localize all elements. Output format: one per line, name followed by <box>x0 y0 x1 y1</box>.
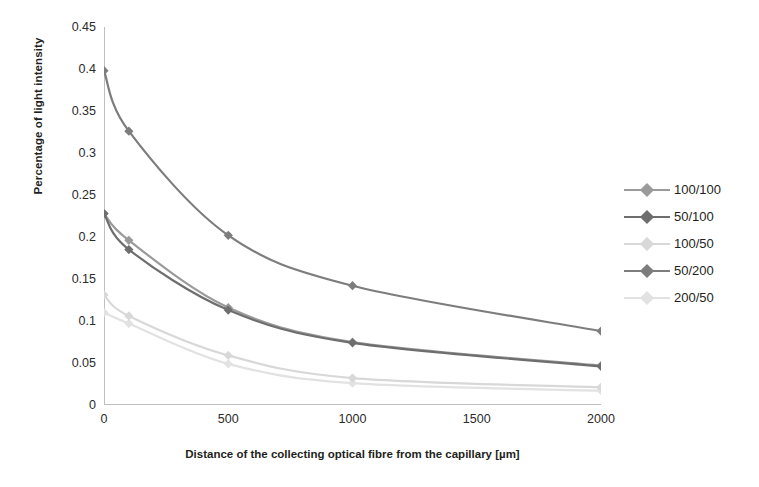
legend-marker-icon <box>624 183 670 197</box>
legend-marker-icon <box>624 210 670 224</box>
y-tick-label: 0.25 <box>52 189 96 201</box>
y-axis-title: Percentage of light intensity <box>32 0 44 246</box>
axis-lines <box>104 27 601 405</box>
data-point <box>104 308 109 317</box>
y-tick-label: 0.05 <box>52 357 96 369</box>
chart-figure: Percentage of light intensity 00.050.10.… <box>0 0 759 487</box>
legend-marker-icon <box>624 237 670 251</box>
legend-marker-icon <box>624 291 670 305</box>
x-tick-label: 2000 <box>571 412 631 426</box>
y-tick-label: 0.3 <box>52 147 96 159</box>
y-tick-label: 0 <box>52 399 96 411</box>
y-tick-label: 0.2 <box>52 231 96 243</box>
series-50-200 <box>104 66 601 336</box>
y-tick-label: 0.1 <box>52 315 96 327</box>
legend-item-100-100[interactable]: 100/100 <box>624 176 754 203</box>
legend-label: 100/100 <box>674 183 721 197</box>
y-tick-label: 0.35 <box>52 105 96 117</box>
x-tick-label: 0 <box>74 412 134 426</box>
legend-label: 100/50 <box>674 237 714 251</box>
data-point <box>104 66 109 75</box>
x-tick-label: 1500 <box>447 412 507 426</box>
legend-label: 200/50 <box>674 291 714 305</box>
legend-item-200-50[interactable]: 200/50 <box>624 284 754 311</box>
data-point <box>348 374 357 383</box>
data-point <box>348 338 357 347</box>
x-axis-title: Distance of the collecting optical fibre… <box>104 448 601 460</box>
chart-legend: 100/10050/100100/5050/200200/50 <box>624 176 754 311</box>
x-tick-label: 1000 <box>323 412 383 426</box>
y-tick-label: 0.45 <box>52 21 96 33</box>
x-tick-label: 500 <box>198 412 258 426</box>
data-point <box>596 362 601 371</box>
data-point <box>224 359 233 368</box>
data-point <box>596 326 601 335</box>
data-point <box>224 351 233 360</box>
legend-item-50-200[interactable]: 50/200 <box>624 257 754 284</box>
legend-item-50-100[interactable]: 50/100 <box>624 203 754 230</box>
legend-label: 50/200 <box>674 264 714 278</box>
data-point <box>348 281 357 290</box>
y-tick-label: 0.4 <box>52 63 96 75</box>
y-tick-label: 0.15 <box>52 273 96 285</box>
series-canvas <box>104 27 601 405</box>
legend-label: 50/100 <box>674 210 714 224</box>
legend-marker-icon <box>624 264 670 278</box>
plot-area <box>104 27 601 405</box>
legend-item-100-50[interactable]: 100/50 <box>624 230 754 257</box>
data-point <box>124 311 133 320</box>
